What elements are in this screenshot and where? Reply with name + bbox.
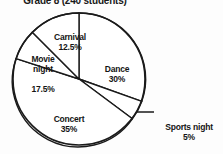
slice-label-dance: Dance 30%: [95, 54, 139, 94]
slice-label-dance-name: Dance: [105, 64, 130, 74]
slice-label-carnival-name: Carnival: [54, 32, 86, 42]
slice-label-sports-night: Sports night 5%: [156, 112, 222, 152]
slice-label-movie-night-line2: night: [18, 64, 68, 74]
pie-chart: Grade 8 (240 students) Dance 30% Carniva…: [0, 0, 223, 154]
slice-label-sports-night-name: Sports night: [165, 122, 213, 132]
slice-label-movie-night-line1: Movie: [31, 54, 54, 64]
slice-label-movie-night-percent: 17.5%: [18, 84, 68, 94]
slice-label-concert-name: Concert: [54, 114, 85, 124]
slice-label-dance-percent: 30%: [95, 74, 139, 84]
slice-label-concert: Concert 35%: [40, 104, 98, 144]
slice-label-sports-night-percent: 5%: [156, 132, 222, 142]
slice-label-movie-night: Movie night 17.5%: [18, 44, 68, 104]
slice-label-concert-percent: 35%: [40, 124, 98, 134]
